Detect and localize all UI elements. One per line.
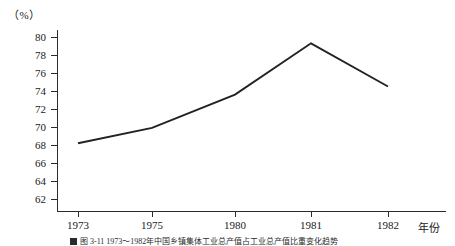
series-polyline <box>78 43 388 143</box>
caption-text: 图 3-11 1973～1982年中国乡镇集体工业总产值占工业总产值比重变化趋势 <box>80 237 338 246</box>
figure-caption: 图 3-11 1973～1982年中国乡镇集体工业总产值占工业总产值比重变化趋势 <box>70 237 450 246</box>
data-line-series <box>0 0 455 246</box>
caption-bullet-icon <box>70 238 77 245</box>
figure-container: （%） 80787674727068666462 197319751980198… <box>0 0 455 246</box>
x-axis-name-label: 年份 <box>418 219 440 235</box>
